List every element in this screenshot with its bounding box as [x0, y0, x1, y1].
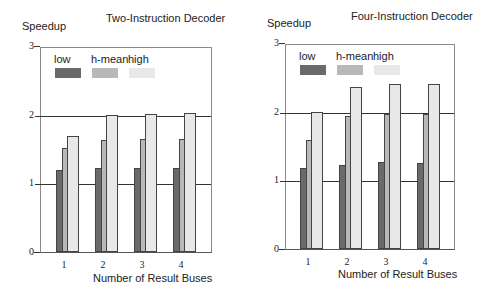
y-tick-label: 2 — [265, 106, 279, 117]
plot-area: lowh-meanhigh — [285, 44, 455, 250]
y-tick-mark — [34, 46, 40, 47]
bar-high-2 — [350, 87, 362, 249]
x-tick-label: 2 — [96, 259, 110, 270]
y-tick-label: 0 — [20, 246, 34, 257]
x-axis-label: Number of Result Buses — [338, 268, 457, 280]
x-tick-label: 3 — [379, 256, 393, 267]
y-tick-label: 2 — [20, 109, 34, 120]
legend-swatch-low — [300, 65, 326, 75]
legend-swatch-high — [374, 65, 400, 75]
x-tick-label: 3 — [135, 259, 149, 270]
bar-high-4 — [428, 84, 440, 249]
x-axis-label: Number of Result Buses — [93, 272, 212, 284]
four-instruction-decoder-chart: SpeedupFour-Instruction DecoderNumber of… — [245, 0, 487, 305]
legend-label-high: high — [373, 50, 394, 62]
y-tick-label: 1 — [20, 177, 34, 188]
legend-label-h-mean: h-mean — [336, 50, 373, 62]
x-tick-label: 1 — [301, 256, 315, 267]
y-tick-label: 3 — [20, 40, 34, 51]
legend-label-h-mean: h-mean — [91, 53, 128, 65]
y-tick-mark — [279, 43, 285, 44]
y-tick-label: 0 — [265, 243, 279, 254]
legend-label-low: low — [54, 53, 71, 65]
bar-high-1 — [311, 112, 323, 249]
chart-title: Four-Instruction Decoder — [351, 10, 473, 22]
x-tick-label: 4 — [174, 259, 188, 270]
plot-area: lowh-meanhigh — [40, 47, 212, 253]
x-tick-label: 1 — [57, 259, 71, 270]
y-axis-label: Speedup — [22, 20, 66, 32]
bar-high-3 — [145, 114, 157, 252]
y-tick-mark — [279, 249, 285, 250]
legend-swatch-high — [129, 68, 155, 78]
bar-high-3 — [389, 84, 401, 249]
y-tick-label: 3 — [265, 37, 279, 48]
legend-label-high: high — [128, 53, 149, 65]
y-tick-mark — [34, 252, 40, 253]
x-tick-label: 2 — [340, 256, 354, 267]
x-tick-label: 4 — [418, 256, 432, 267]
two-instruction-decoder-chart: SpeedupTwo-Instruction DecoderNumber of … — [0, 0, 245, 305]
bar-high-2 — [106, 115, 118, 252]
y-tick-label: 1 — [265, 174, 279, 185]
legend-swatch-h-mean — [92, 68, 118, 78]
y-axis-label: Speedup — [267, 17, 311, 29]
bar-high-1 — [67, 136, 79, 252]
legend-swatch-low — [55, 68, 81, 78]
legend-swatch-h-mean — [337, 65, 363, 75]
legend-label-low: low — [299, 50, 316, 62]
chart-title: Two-Instruction Decoder — [106, 12, 225, 24]
bar-high-4 — [184, 113, 196, 252]
